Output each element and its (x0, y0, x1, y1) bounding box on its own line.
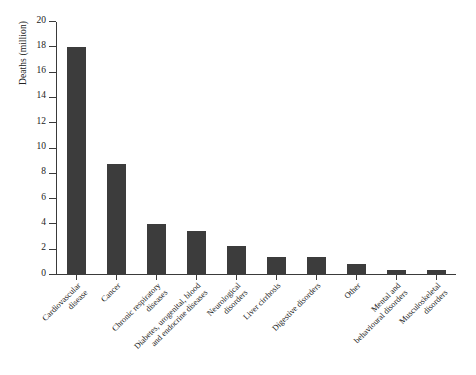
y-axis-tick-label: 0 (41, 268, 46, 278)
bar (307, 257, 326, 275)
bar (267, 257, 286, 275)
x-axis-labels: CardiovasculardiseaseCancerChronic respi… (56, 281, 476, 375)
y-axis-title: Deaths (million) (18, 0, 28, 108)
y-axis-tick-label: 8 (41, 166, 46, 176)
bar (67, 47, 86, 275)
x-axis-tick (276, 275, 277, 280)
y-axis-tick-label: 12 (37, 116, 47, 126)
x-axis-tick (156, 275, 157, 280)
plot-area: 02468101214161820 (56, 22, 456, 275)
x-axis-tick-label-line: Other (343, 281, 363, 301)
bar (147, 224, 166, 275)
y-axis-tick: 10 (49, 148, 56, 149)
x-axis-tick (396, 275, 397, 280)
y-axis-tick: 18 (49, 46, 56, 47)
x-axis-tick (436, 275, 437, 280)
y-axis-tick-label: 18 (37, 40, 47, 50)
bar (187, 231, 206, 275)
x-axis-tick (356, 275, 357, 280)
bar-chart-figure: Deaths (million) 02468101214161820 Cardi… (0, 0, 476, 375)
y-axis-tick-label: 14 (37, 90, 47, 100)
y-axis-tick: 12 (49, 122, 56, 123)
bar (107, 164, 126, 275)
bar (227, 246, 246, 275)
y-axis-tick-label: 16 (37, 65, 47, 75)
bars-layer (56, 22, 456, 275)
x-axis-tick-label-line: Cancer (99, 281, 122, 304)
x-axis-tick (76, 275, 77, 280)
y-axis-tick: 14 (49, 97, 56, 98)
y-axis-tick: 6 (49, 198, 56, 199)
y-axis-tick-label: 2 (41, 242, 46, 252)
x-axis-tick-label-line: Liver cirrhosis (242, 281, 283, 322)
y-axis-tick: 20 (49, 21, 56, 22)
y-axis-tick-label: 6 (41, 192, 46, 202)
bar (347, 264, 366, 275)
y-axis-tick-label: 10 (37, 141, 47, 151)
y-axis-tick: 2 (49, 249, 56, 250)
y-axis-tick: 16 (49, 72, 56, 73)
y-axis-tick-label: 20 (37, 15, 47, 25)
x-axis-tick (236, 275, 237, 280)
y-axis-tick-label: 4 (41, 217, 46, 227)
y-axis-tick: 8 (49, 173, 56, 174)
y-axis-tick: 4 (49, 223, 56, 224)
x-axis-tick (116, 275, 117, 280)
x-axis-tick (196, 275, 197, 280)
x-axis-tick (316, 275, 317, 280)
y-axis-tick: 0 (49, 274, 56, 275)
